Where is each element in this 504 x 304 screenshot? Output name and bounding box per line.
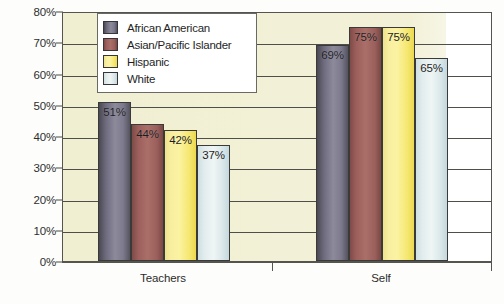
- bar: 75%: [382, 27, 415, 261]
- y-tick-label: 60%: [0, 69, 56, 81]
- x-axis-line: [62, 262, 492, 263]
- bar: 44%: [131, 124, 164, 262]
- bar-value-label: 69%: [317, 49, 348, 61]
- y-tick-label: 10%: [0, 225, 56, 237]
- legend: African AmericanAsian/Pacific IslanderHi…: [97, 13, 257, 93]
- legend-item: White: [103, 70, 250, 87]
- bar-value-label: 42%: [165, 134, 196, 146]
- bar: 37%: [197, 145, 230, 261]
- bar: 65%: [415, 58, 448, 261]
- bar: 51%: [98, 102, 131, 261]
- bar-value-label: 65%: [416, 62, 447, 74]
- x-category-label: Teachers: [140, 272, 186, 284]
- legend-swatch: [103, 38, 118, 51]
- x-tick-mark: [272, 262, 273, 271]
- bar-value-label: 75%: [350, 31, 381, 43]
- bar-value-label: 37%: [198, 149, 229, 161]
- legend-item: Asian/Pacific Islander: [103, 36, 250, 53]
- bar-value-label: 75%: [383, 31, 414, 43]
- y-tick-label: 80%: [0, 6, 56, 18]
- x-tick-mark: [491, 262, 492, 271]
- y-tick-label: 70%: [0, 37, 56, 49]
- caption-clipped: [60, 297, 380, 304]
- y-tick-label: 20%: [0, 194, 56, 206]
- bar-value-label: 51%: [99, 106, 130, 118]
- bar-value-label: 44%: [132, 128, 163, 140]
- plot-background-white: [446, 13, 491, 261]
- bar: 42%: [164, 130, 197, 261]
- y-tick-label: 30%: [0, 162, 56, 174]
- legend-label: Asian/Pacific Islander: [127, 39, 231, 51]
- y-tick-label: 50%: [0, 100, 56, 112]
- legend-label: White: [127, 73, 155, 85]
- legend-swatch: [103, 72, 118, 85]
- legend-item: Hispanic: [103, 53, 250, 70]
- bar: 75%: [349, 27, 382, 261]
- x-category-label: Self: [371, 272, 390, 284]
- legend-label: Hispanic: [127, 56, 169, 68]
- legend-label: African American: [127, 22, 210, 34]
- legend-swatch: [103, 55, 118, 68]
- legend-item: African American: [103, 19, 250, 36]
- bar-chart: 0%10%20%30%40%50%60%70%80% 51%44%42%37%6…: [0, 0, 504, 304]
- y-tick-label: 0%: [0, 256, 56, 268]
- legend-swatch: [103, 21, 118, 34]
- y-tick-label: 40%: [0, 131, 56, 143]
- bar: 69%: [316, 45, 349, 261]
- y-axis: 0%10%20%30%40%50%60%70%80%: [0, 0, 56, 268]
